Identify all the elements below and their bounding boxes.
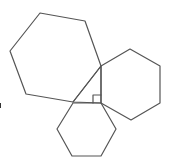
horizontal-leg-hexagon: [57, 103, 116, 156]
hexagon-pythagorean-diagram: [0, 0, 169, 165]
cropped-label-fragment: [0, 103, 1, 108]
hypotenuse-hexagon: [10, 13, 101, 102]
right-triangle: [73, 66, 101, 103]
right-angle-marker: [93, 95, 101, 103]
vertical-leg-hexagon: [101, 49, 160, 120]
